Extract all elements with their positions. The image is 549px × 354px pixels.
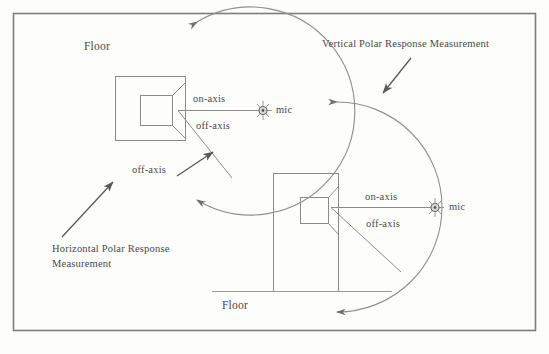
left-off-axis-leader-label: off-axis — [132, 164, 166, 176]
right-caption: Vertical Polar Response Measurement — [322, 38, 489, 50]
left-speaker-cabinet — [116, 77, 186, 141]
left-speaker-group — [116, 77, 186, 141]
left-mic-symbol — [254, 101, 272, 120]
right-on-axis-label: on-axis — [365, 191, 397, 203]
right-off-axis-label: off-axis — [366, 218, 400, 230]
left-caption-leader — [62, 182, 113, 237]
diagram-border — [14, 14, 536, 331]
right-floor-label: Floor — [222, 299, 248, 312]
right-driver-cone — [329, 187, 339, 235]
right-mic-label: mic — [449, 201, 465, 213]
left-caption-line2: Measurement — [52, 258, 111, 270]
right-driver-body — [301, 198, 329, 224]
right-speaker-cabinet — [274, 174, 339, 292]
right-caption-leader — [383, 58, 411, 93]
left-mic-label: mic — [276, 104, 292, 116]
left-off-axis-leader — [177, 152, 213, 176]
diagram-canvas: Floor on-axis off-axis off-axis mic Hori… — [0, 0, 549, 354]
left-off-axis-label: off-axis — [196, 120, 230, 132]
diagram-vector-layer — [0, 0, 549, 354]
left-caption-line1: Horizontal Polar Response — [52, 243, 170, 255]
right-speaker-group — [274, 174, 339, 292]
left-floor-label: Floor — [84, 40, 110, 53]
left-driver-body — [141, 96, 173, 126]
left-on-axis-label: on-axis — [193, 93, 225, 105]
